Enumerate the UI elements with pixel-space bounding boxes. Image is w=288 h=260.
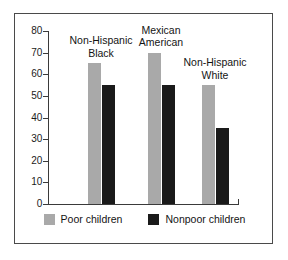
bar-nonpoor-group-1 bbox=[102, 85, 115, 204]
y-tick-mark-60 bbox=[43, 74, 48, 75]
group-label-3-line-2: White bbox=[155, 69, 275, 82]
group-label-2-line-1: Mexican bbox=[101, 24, 221, 37]
x-axis-end-tick bbox=[238, 199, 239, 205]
group-label-2: MexicanAmerican bbox=[101, 24, 221, 49]
y-tick-label-20: 20 bbox=[18, 156, 42, 166]
y-tick-mark-20 bbox=[43, 161, 48, 162]
y-tick-label-30: 30 bbox=[18, 134, 42, 144]
y-axis-tick-labels: 80 70 60 50 40 30 20 10 0 bbox=[15, 14, 42, 245]
y-tick-mark-40 bbox=[43, 118, 48, 119]
group-label-3-line-1: Non-Hispanic bbox=[155, 56, 275, 69]
group-label-3: Non-HispanicWhite bbox=[155, 56, 275, 81]
y-tick-label-40: 40 bbox=[18, 113, 42, 123]
y-tick-mark-50 bbox=[43, 96, 48, 97]
plot-area: 80 70 60 50 40 30 20 10 0 Non-HispanicBl… bbox=[15, 14, 274, 245]
bar-nonpoor-group-2 bbox=[162, 85, 175, 204]
legend-item-poor-children: Poor children bbox=[44, 214, 123, 225]
y-tick-mark-10 bbox=[43, 182, 48, 183]
legend-swatch-poor-icon bbox=[44, 214, 55, 225]
y-tick-mark-80 bbox=[43, 31, 48, 32]
legend-label-poor: Poor children bbox=[61, 214, 123, 225]
legend-label-nonpoor: Nonpoor children bbox=[165, 214, 245, 225]
chart-legend: Poor children Nonpoor children bbox=[15, 214, 274, 225]
y-tick-label-70: 70 bbox=[18, 48, 42, 58]
legend-swatch-nonpoor-icon bbox=[148, 214, 159, 225]
bar-poor-group-3 bbox=[202, 85, 215, 204]
y-tick-label-80: 80 bbox=[18, 26, 42, 36]
y-tick-label-60: 60 bbox=[18, 69, 42, 79]
bar-poor-group-1 bbox=[88, 63, 101, 204]
chart-figure-frame: 80 70 60 50 40 30 20 10 0 Non-HispanicBl… bbox=[14, 13, 273, 244]
y-tick-label-0: 0 bbox=[18, 199, 42, 209]
x-axis-line bbox=[48, 204, 239, 205]
y-tick-mark-0 bbox=[43, 204, 48, 205]
group-label-2-line-2: American bbox=[101, 36, 221, 49]
y-tick-mark-30 bbox=[43, 139, 48, 140]
legend-item-nonpoor-children: Nonpoor children bbox=[148, 214, 245, 225]
bar-nonpoor-group-3 bbox=[216, 128, 229, 204]
y-tick-label-10: 10 bbox=[18, 177, 42, 187]
group-label-1-line-2: Black bbox=[41, 47, 161, 60]
y-tick-label-50: 50 bbox=[18, 91, 42, 101]
